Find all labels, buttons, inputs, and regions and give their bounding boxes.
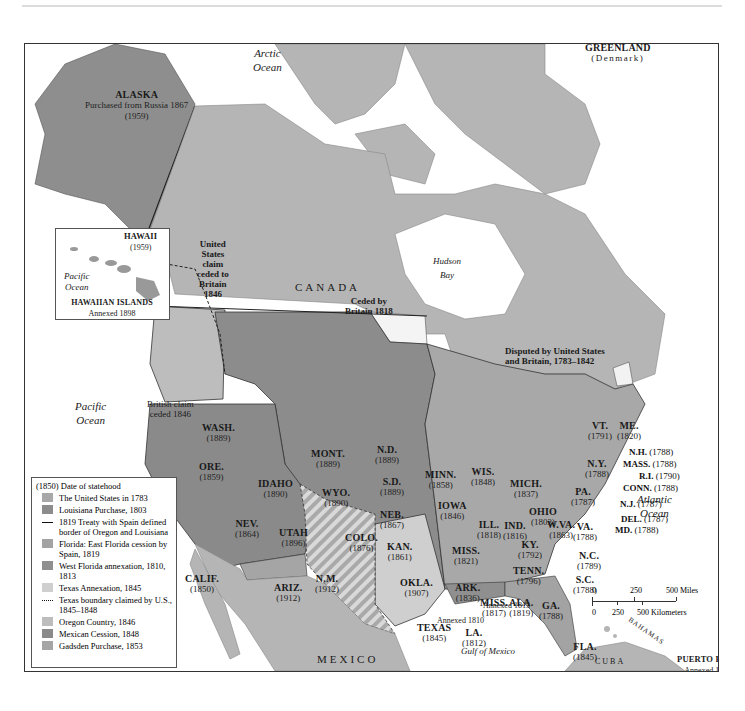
callout-md: MD. (1788) — [615, 525, 659, 535]
state-ny: N.Y.(1788) — [585, 458, 609, 480]
hawaii-title: HAWAII(1959) — [124, 231, 157, 253]
hudson-bay-label: Hudson Bay — [433, 254, 461, 282]
legend-title: (1850) Date of statehood — [36, 481, 172, 491]
hawaii-inset: HAWAII(1959) Pacific Ocean HAWAIIAN ISLA… — [55, 228, 170, 320]
mexico-label: MEXICO — [317, 654, 378, 665]
arctic-ocean-label: Arctic Ocean — [253, 46, 282, 74]
top-divider — [22, 5, 722, 7]
state-vt: VT.(1791) — [588, 420, 612, 442]
ceded-1818-label: Ceded by Britain 1818 — [345, 296, 393, 316]
state-wyo: WYO.(1890) — [322, 487, 350, 509]
greenland-label: GREENLAND(Denmark) — [585, 43, 651, 64]
legend-item-mexican-cession: Mexican Cession, 1848 — [36, 629, 172, 639]
hawaii-pacific-label: Pacific Ocean — [64, 271, 90, 293]
legend-item-texas: Texas Annexation, 1845 — [36, 583, 172, 593]
legend-item-florida: Florida: East Florida cession by Spain, … — [36, 539, 172, 559]
state-wis: WIS.(1848) — [471, 466, 495, 488]
legend-swatch — [42, 641, 53, 650]
callout-ri: R.I. (1790) — [639, 471, 680, 481]
british-claim-label: British claim ceded 1846 — [147, 399, 194, 419]
greenland-landmass — [405, 44, 600, 194]
state-ala: ALA.(1819) — [509, 597, 533, 619]
legend-swatch — [42, 629, 53, 638]
legend-swatch — [42, 493, 53, 502]
state-ore: ORE.(1859) — [199, 461, 224, 483]
state-wash: WASH.(1889) — [202, 422, 235, 444]
disputed-label: Disputed by United States and Britain, 1… — [505, 346, 605, 366]
map-frame: Arctic Ocean Pacific Ocean Atlantic Ocea… — [24, 43, 719, 672]
state-colo: COLO.(1876) — [345, 532, 378, 554]
canada-label: CANADA — [295, 282, 360, 293]
callout-nh: N.H. (1788) — [629, 447, 673, 457]
oregon-country — [150, 306, 225, 402]
state-me: ME.(1820) — [617, 420, 641, 442]
legend-swatch — [42, 617, 53, 626]
state-neb: NEB.(1867) — [380, 509, 404, 531]
state-tenn: TENN.(1796) — [513, 565, 544, 587]
hawaiian-islands-label: HAWAIIAN ISLANDSAnnexed 1898 — [62, 297, 162, 319]
state-miss-mo: MISS.(1821) — [452, 545, 480, 567]
state-miss: MISS.(1817) — [480, 597, 508, 619]
callout-del: DEL. (1787) — [621, 514, 668, 524]
legend-item-louisiana: Louisiana Purchase, 1803 — [36, 505, 172, 515]
state-mont: MONT.(1889) — [311, 448, 345, 470]
scale-bar: 0 250 500 Miles 0 250 500 Kilometers — [592, 586, 702, 626]
state-pa: PA.(1787) — [571, 486, 595, 508]
state-minn: MINN.(1858) — [425, 469, 456, 491]
callout-conn: CONN. (1788) — [623, 483, 678, 493]
legend-item-west-florida: West Florida annexation, 1810, 1813 — [36, 561, 172, 581]
arctic-islands — [275, 44, 405, 124]
callout-mass: MASS. (1788) — [623, 459, 677, 469]
state-ark: ARK.(1836) — [455, 582, 481, 604]
legend-item-treaty-1819: 1819 Treaty with Spain defined border of… — [36, 517, 172, 537]
legend-line-icon — [42, 522, 53, 523]
state-nc: N.C.(1789) — [577, 550, 601, 572]
legend-dotted-line-icon — [42, 600, 53, 601]
state-kan: KAN.(1861) — [387, 541, 413, 563]
state-ky: KY.(1792) — [518, 539, 542, 561]
state-iowa: IOWA(1846) — [438, 500, 467, 522]
state-idaho: IDAHO(1890) — [258, 478, 293, 500]
state-texas: TEXAS(1845) — [417, 622, 451, 644]
state-ariz: ARIZ.(1912) — [274, 582, 303, 604]
state-nd: N.D.(1889) — [375, 444, 399, 466]
puerto-rico-label: PUERTO RICOAnnexed 1898 — [677, 654, 719, 672]
state-fla: FLA.(1845) — [573, 641, 597, 663]
state-calif: CALIF.(1850) — [185, 573, 219, 595]
callout-nj: N.J. (1787) — [620, 499, 662, 509]
legend-item-us-1783: The United States in 1783 — [36, 493, 172, 503]
map-legend: (1850) Date of statehood The United Stat… — [31, 477, 177, 668]
state-ga: GA.(1788) — [539, 600, 563, 622]
state-nev: NEV.(1864) — [235, 518, 259, 540]
legend-swatch — [42, 583, 53, 592]
legend-swatch — [42, 505, 53, 514]
legend-item-oregon: Oregon Country, 1846 — [36, 617, 172, 627]
state-okla: OKLA.(1907) — [400, 577, 433, 599]
legend-swatch — [42, 539, 53, 548]
state-utah: UTAH(1896) — [279, 527, 308, 549]
state-mich: MICH.(1837) — [510, 478, 542, 500]
legend-item-texas-boundary: Texas boundary claimed by U.S., 1845–184… — [36, 595, 172, 615]
legend-item-gadsden: Gadsden Purchase, 1853 — [36, 641, 172, 651]
legend-swatch — [42, 561, 53, 570]
alaska-label: ALASKAPurchased from Russia 1867(1959) — [85, 89, 188, 122]
us-claim-ceded-label: United States claim ceded to Britain 184… — [197, 239, 229, 299]
cuba-label: CUBA — [595, 656, 625, 667]
state-la: LA.(1812) — [462, 627, 486, 649]
state-ill: ILL.(1818) — [477, 519, 501, 541]
state-wva: W.VA.(1863) — [547, 519, 575, 541]
state-va: VA.(1788) — [573, 521, 597, 543]
state-nm: N.M.(1912) — [315, 573, 339, 595]
pacific-ocean-label: Pacific Ocean — [75, 399, 106, 427]
state-sd: S.D.(1889) — [380, 476, 404, 498]
